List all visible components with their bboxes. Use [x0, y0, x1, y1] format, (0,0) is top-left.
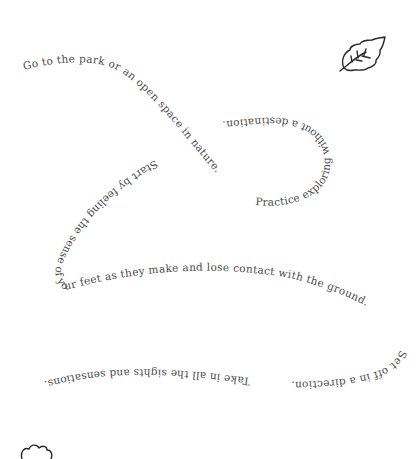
leaf-icon: [340, 37, 385, 71]
path-text-segment-1: Go to the park or an open space in natur…: [22, 52, 224, 175]
curved-text-illustration: Go to the park or an open space in natur…: [0, 0, 420, 459]
path-text-segment-4: Set off in a direction.: [291, 349, 410, 392]
path-text-segment-5: Take in all the sights and sensations.: [43, 367, 250, 391]
mindful-walk-page: Go to the park or an open space in natur…: [0, 0, 420, 459]
cloud-doodle-icon: [21, 445, 51, 459]
path-text-segment-2: Practice exploring without a destination…: [222, 116, 332, 208]
